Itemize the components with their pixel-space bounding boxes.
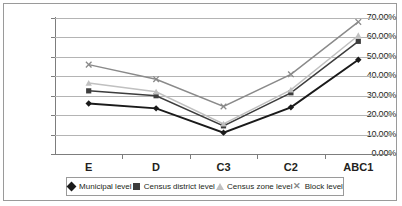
chart-frame: 70.00%60.00%50.00%40.00%30.00%20.00%10.0… (3, 3, 397, 201)
square-marker-icon (132, 182, 141, 191)
legend-label: Municipal level (79, 182, 131, 191)
data-point-marker (288, 72, 294, 78)
x-axis-tick-label-c3: C3 (216, 161, 230, 173)
legend-entry-census-zone-level[interactable]: Census zone level (215, 182, 292, 191)
data-point-marker (356, 19, 362, 25)
data-point-marker (355, 32, 361, 38)
x-axis-tick-mark (325, 154, 326, 159)
x-axis-tick-label-abc1: ABC1 (343, 161, 373, 173)
x-axis-tick-mark (190, 154, 191, 159)
series-lines-layer (55, 18, 392, 154)
data-point-marker (153, 105, 159, 111)
series-census-zone-level (86, 32, 362, 126)
legend-entry-census-district-level[interactable]: Census district level (132, 182, 215, 191)
series-line (89, 35, 359, 123)
legend-label: Block level (305, 182, 343, 191)
legend-label: Census zone level (227, 182, 292, 191)
data-point-marker (356, 39, 361, 44)
x-marker-icon: ✕ (293, 182, 302, 191)
x-axis-tick-label-d: D (152, 161, 160, 173)
legend-entry-municipal-level[interactable]: Municipal level (67, 182, 131, 191)
legend-label: Census district level (144, 182, 215, 191)
diamond-marker-icon (67, 182, 76, 191)
x-axis-tick-label-e: E (85, 161, 92, 173)
triangle-marker-icon (215, 182, 224, 191)
legend-entry-block-level[interactable]: ✕Block level (293, 182, 343, 191)
data-point-marker (86, 88, 91, 93)
chart-legend: Municipal levelCensus district levelCens… (66, 177, 344, 196)
series-block-level (86, 19, 361, 109)
x-axis-tick-label-c2: C2 (284, 161, 298, 173)
data-point-marker (86, 100, 92, 106)
data-point-marker (220, 129, 226, 135)
x-axis-line (55, 154, 392, 155)
x-axis-tick-mark (257, 154, 258, 159)
x-axis-tick-mark (122, 154, 123, 159)
